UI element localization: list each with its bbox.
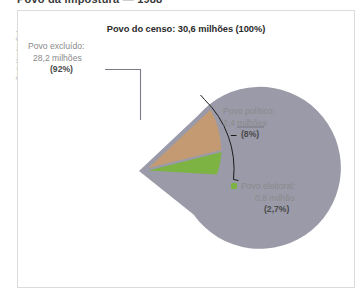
page-header-strip: Povo da impostura — 1988	[17, 0, 358, 9]
legend-eleitoral-percent: (2,7%)	[231, 204, 295, 216]
legend-color-swatch-icon	[231, 183, 237, 189]
legend-eleitoral-name: Povo eleitoral:	[241, 181, 295, 191]
label-excluded-value: 28,2 milhões	[28, 53, 84, 65]
legend-eleitoral-value: 0,8 milhão	[231, 193, 295, 205]
label-excluded-name: Povo excluído:	[28, 41, 84, 53]
label-povo-excluido: Povo excluído: 28,2 milhões (92%)	[28, 41, 84, 76]
page-header-title: Povo da impostura — 1988	[17, 0, 162, 5]
label-excluded-percent: (92%)	[28, 64, 84, 76]
leader-line-excluded	[105, 70, 141, 121]
figure-container: Povo do censo: 30,6 milhões (100%) Povo …	[17, 10, 355, 288]
legend-povo-eleitoral: Povo eleitoral: 0,8 milhão (2,7%)	[231, 181, 295, 216]
label-politico-value: 2,4 milhões	[223, 118, 275, 130]
legend-eleitoral-row: Povo eleitoral:	[231, 181, 295, 193]
label-povo-politico: Povo político: 2,4 milhões (8%)	[223, 106, 275, 141]
label-politico-percent: (8%)	[223, 129, 275, 141]
label-politico-name: Povo político:	[223, 106, 275, 118]
group-bracket-tick-top	[201, 95, 205, 100]
